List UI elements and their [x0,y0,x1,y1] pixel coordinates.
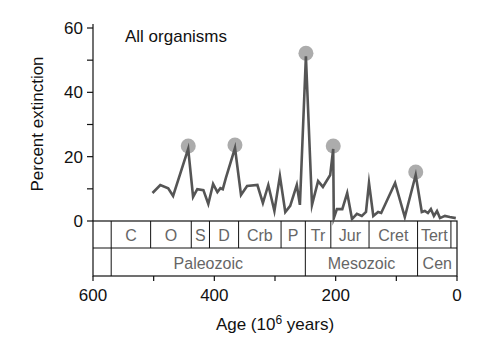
x-axis: 6004002000 [79,276,462,305]
period-label: Crb [247,227,273,244]
y-tick-label: 20 [64,148,83,167]
era-label: Mesozoic [328,255,396,272]
extinction-series [153,56,456,219]
period-label: Jur [339,227,362,244]
y-tick-label: 40 [64,83,83,102]
period-label: O [165,227,177,244]
y-tick-label: 60 [64,19,83,38]
period-label: Cret [378,227,409,244]
era-label: Paleozoic [174,255,243,272]
extinction-chart: 0204060 6004002000 COSDCrbPTrJurCretTert… [0,0,489,353]
chart-title: All organisms [125,27,227,46]
period-label: Tert [421,227,448,244]
period-label: S [195,227,206,244]
x-tick-label: 400 [200,286,228,305]
period-label: C [125,227,137,244]
x-tick-label: 0 [452,286,461,305]
y-axis-label: Percent extinction [28,56,47,191]
period-label: D [218,227,230,244]
era-label: Cen [423,255,452,272]
extinction-line [153,56,456,219]
period-label: P [288,227,299,244]
x-tick-label: 200 [321,286,349,305]
period-label: Tr [311,227,326,244]
x-tick-label: 600 [79,286,107,305]
x-axis-label: Age (106 years) [216,313,334,334]
y-axis: 0204060 [64,19,93,231]
geologic-timescale-table: COSDCrbPTrJurCretTertPaleozoicMesozoicCe… [93,221,457,276]
y-tick-label: 0 [74,212,83,231]
